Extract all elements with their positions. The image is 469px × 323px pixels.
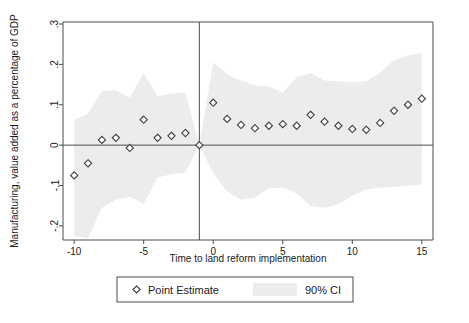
legend-label-point-estimate: Point Estimate [148, 284, 219, 296]
y-tick-label: .1 [50, 100, 61, 109]
y-axis-ticks: -.2-.10.1.2.3 [50, 19, 64, 231]
legend-label-ci: 90% CI [305, 284, 341, 296]
y-tick-label: -.2 [50, 220, 61, 232]
ci-swatch [253, 283, 297, 296]
x-tick-label: -10 [67, 246, 82, 257]
y-axis-title: Manufacturing, value added as a percenta… [9, 14, 20, 248]
x-tick-label: -5 [139, 246, 148, 257]
x-axis-title: Time to land reform implementation [170, 253, 327, 264]
y-tick-label: .3 [50, 19, 61, 28]
event-study-scatter-plot: -10-5051015 -.2-.10.1.2.3 Time to land r… [0, 0, 469, 323]
chart-legend: Point Estimate 90% CI [117, 277, 353, 302]
y-tick-label: -.1 [50, 179, 61, 191]
x-tick-label: 15 [416, 246, 428, 257]
y-tick-label: .2 [50, 60, 61, 69]
x-tick-label: 10 [347, 246, 359, 257]
chart-figure: -10-5051015 -.2-.10.1.2.3 Time to land r… [0, 0, 469, 323]
y-tick-label: 0 [50, 142, 61, 148]
